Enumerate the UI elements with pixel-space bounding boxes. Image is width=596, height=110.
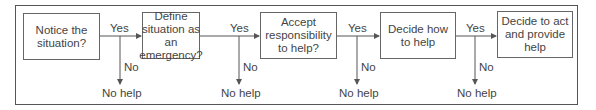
step-notice-situation: Notice the situation? — [23, 13, 100, 60]
step-decide-how: Decide how to help — [380, 12, 456, 59]
step-accept-responsibility: Accept responsibility to help? — [260, 12, 337, 59]
no-help-1: No help — [102, 87, 142, 99]
no-label-3: No — [361, 61, 376, 73]
no-help-4: No help — [457, 87, 497, 99]
no-label-1: No — [124, 61, 139, 73]
no-label-4: No — [479, 61, 494, 73]
step-decide-act: Decide to act and provide help — [497, 11, 573, 58]
yes-label-2: Yes — [230, 22, 249, 34]
no-label-2: No — [243, 61, 258, 73]
step-define-emergency: Define situation as an emergency? — [142, 12, 200, 59]
yes-label-1: Yes — [110, 22, 129, 34]
yes-label-3: Yes — [348, 22, 367, 34]
yes-label-4: Yes — [466, 22, 485, 34]
no-help-2: No help — [221, 87, 261, 99]
no-help-3: No help — [339, 87, 379, 99]
